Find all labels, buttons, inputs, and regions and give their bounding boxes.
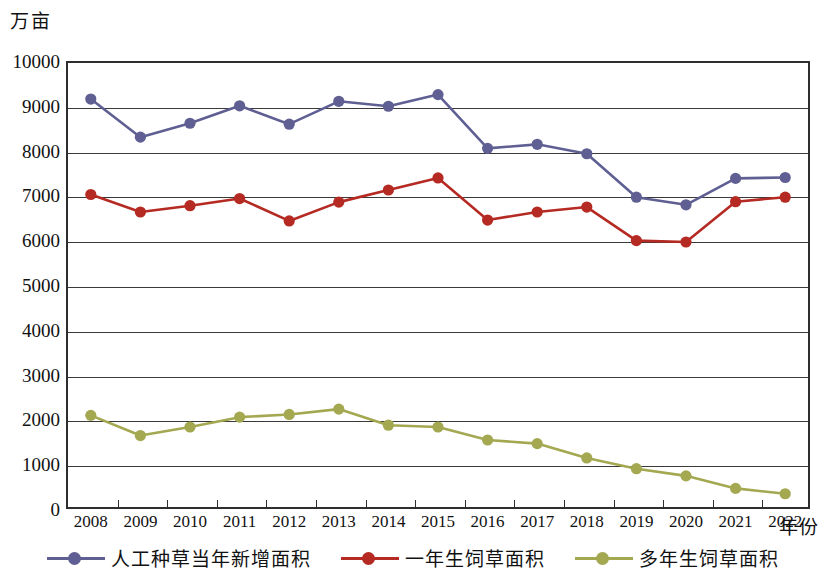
- data-point: [532, 139, 543, 150]
- y-axis-tick-label: 8000: [0, 141, 60, 160]
- x-axis-tick-label: 2016: [471, 513, 505, 530]
- y-axis-tick-label: 3000: [0, 365, 60, 384]
- legend-item[interactable]: 多年生饲草面积: [575, 544, 779, 571]
- data-point: [85, 410, 96, 421]
- y-axis-tick-label: 6000: [0, 231, 60, 250]
- data-point: [383, 184, 394, 195]
- x-axis-tick-label: 2015: [421, 513, 455, 530]
- legend-swatch-icon: [341, 551, 399, 565]
- data-point: [730, 483, 741, 494]
- chart-legend: 人工种草当年新增面积一年生饲草面积多年生饲草面积: [0, 544, 826, 571]
- x-axis-tick-label: 2009: [123, 513, 157, 530]
- series-3: [85, 404, 791, 500]
- legend-label: 人工种草当年新增面积: [111, 544, 311, 571]
- data-point: [135, 206, 146, 217]
- data-point: [85, 93, 96, 104]
- y-axis-tick-label: 9000: [0, 96, 60, 115]
- x-axis-tick-label: 2013: [322, 513, 356, 530]
- y-axis-tick-label: 4000: [0, 320, 60, 339]
- data-point: [631, 192, 642, 203]
- data-point: [730, 173, 741, 184]
- data-point: [85, 189, 96, 200]
- x-axis-tick-label: 2011: [223, 513, 256, 530]
- data-point: [581, 452, 592, 463]
- y-axis-tick-label: 7000: [0, 186, 60, 205]
- legend-swatch-icon: [47, 551, 105, 565]
- y-axis-tick-label: 5000: [0, 276, 60, 295]
- y-axis-tick-label: 2000: [0, 410, 60, 429]
- data-point: [482, 143, 493, 154]
- data-point: [135, 132, 146, 143]
- data-point: [333, 404, 344, 415]
- series-layer: [66, 61, 810, 509]
- data-point: [333, 96, 344, 107]
- data-point: [184, 421, 195, 432]
- x-axis-unit-label: 年份: [779, 512, 819, 539]
- data-point: [234, 100, 245, 111]
- legend-swatch-icon: [575, 551, 633, 565]
- legend-item[interactable]: 人工种草当年新增面积: [47, 544, 311, 571]
- data-point: [432, 172, 443, 183]
- data-point: [284, 119, 295, 130]
- y-axis-tick-label: 1000: [0, 455, 60, 474]
- data-point: [532, 206, 543, 217]
- y-axis-unit-label: 万亩: [10, 6, 52, 33]
- legend-label: 一年生饲草面积: [405, 544, 545, 571]
- x-axis-tick-label: 2008: [74, 513, 108, 530]
- data-point: [482, 434, 493, 445]
- data-point: [432, 89, 443, 100]
- data-point: [383, 420, 394, 431]
- data-point: [581, 148, 592, 159]
- series-1: [85, 89, 791, 210]
- x-axis-tick-label: 2014: [371, 513, 405, 530]
- data-point: [730, 196, 741, 207]
- data-point: [482, 214, 493, 225]
- data-point: [135, 430, 146, 441]
- data-point: [234, 412, 245, 423]
- x-axis-tick-label: 2010: [173, 513, 207, 530]
- data-point: [234, 193, 245, 204]
- y-axis-tick-label: 10000: [0, 52, 60, 71]
- data-point: [680, 236, 691, 247]
- data-point: [680, 470, 691, 481]
- data-point: [432, 421, 443, 432]
- data-point: [581, 201, 592, 212]
- data-point: [680, 199, 691, 210]
- series-line: [91, 178, 785, 242]
- data-point: [284, 409, 295, 420]
- legend-item[interactable]: 一年生饲草面积: [341, 544, 545, 571]
- data-point: [284, 215, 295, 226]
- data-point: [631, 463, 642, 474]
- data-point: [333, 197, 344, 208]
- line-chart: 万亩 0100020003000400050006000700080009000…: [0, 0, 826, 573]
- x-axis-tick-label: 2020: [669, 513, 703, 530]
- data-point: [532, 438, 543, 449]
- data-point: [184, 200, 195, 211]
- data-point: [631, 235, 642, 246]
- x-axis-tick-label: 2012: [272, 513, 306, 530]
- data-point: [184, 118, 195, 129]
- data-point: [383, 101, 394, 112]
- data-point: [780, 488, 791, 499]
- x-axis-tick-label: 2019: [619, 513, 653, 530]
- x-axis-tick-label: 2018: [570, 513, 604, 530]
- data-point: [780, 192, 791, 203]
- legend-label: 多年生饲草面积: [639, 544, 779, 571]
- x-axis-tick-label: 2017: [520, 513, 554, 530]
- y-axis-tick-label: 0: [0, 500, 60, 519]
- data-point: [780, 172, 791, 183]
- x-axis-tick-label: 2021: [719, 513, 753, 530]
- series-line: [91, 95, 785, 205]
